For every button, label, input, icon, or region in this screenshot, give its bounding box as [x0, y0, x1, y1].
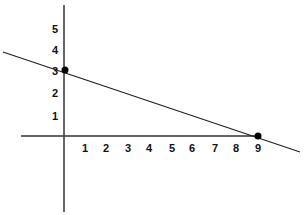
y-tick-label: 2 [52, 87, 58, 99]
x-tick-label: 1 [82, 142, 88, 154]
x-tick-labels: 123456789 [82, 142, 261, 154]
x-tick-label: 7 [212, 142, 218, 154]
y-tick-labels: 12345 [52, 23, 59, 122]
y-tick-label: 1 [52, 110, 58, 122]
chart-svg: 123456789 12345 [0, 0, 304, 215]
x-tick-label: 8 [233, 142, 239, 154]
x-tick-label: 3 [125, 142, 131, 154]
y-tick-label: 5 [52, 23, 58, 35]
y-tick-label: 4 [52, 44, 59, 56]
point-x-intercept [255, 133, 262, 140]
x-tick-label: 4 [146, 142, 153, 154]
x-tick-label: 5 [169, 142, 175, 154]
x-tick-label: 2 [103, 142, 109, 154]
y-tick-label: 3 [52, 65, 58, 77]
x-tick-label: 6 [189, 142, 195, 154]
x-tick-label: 9 [255, 142, 261, 154]
point-y-intercept [62, 67, 69, 74]
coordinate-plane-chart: 123456789 12345 [0, 0, 304, 215]
